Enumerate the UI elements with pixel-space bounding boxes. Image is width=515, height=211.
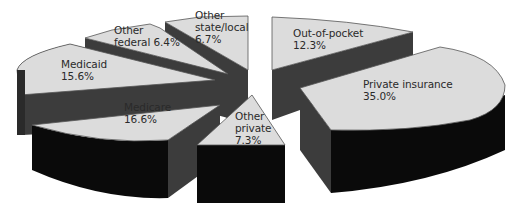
label-private-insurance-value: 35.0%	[363, 90, 453, 102]
slice-other-private-front	[197, 145, 285, 203]
label-other-private-value: 7.3%	[235, 134, 271, 146]
label-other-state-local: Other state/local 6.7%	[195, 9, 249, 45]
label-medicare: Medicare 16.6%	[124, 101, 171, 125]
label-private-insurance: Private insurance 35.0%	[363, 78, 453, 102]
label-out-of-pocket-value: 12.3%	[293, 39, 363, 51]
pie-chart-3d	[0, 0, 515, 211]
label-out-of-pocket-name: Out-of-pocket	[293, 27, 363, 39]
label-medicare-name: Medicare	[124, 101, 171, 113]
label-other-state-local-value: 6.7%	[195, 33, 249, 45]
label-other-federal: Other federal 6.4%	[114, 24, 180, 48]
label-other-state-local-line1: Other	[195, 9, 249, 21]
label-medicaid: Medicaid 15.6%	[61, 58, 107, 82]
label-medicare-value: 16.6%	[124, 113, 171, 125]
label-other-state-local-line2: state/local	[195, 21, 249, 33]
label-other-private: Other private 7.3%	[235, 110, 271, 146]
label-out-of-pocket: Out-of-pocket 12.3%	[293, 27, 363, 51]
label-other-private-line1: Other	[235, 110, 271, 122]
label-other-federal-line1: Other	[114, 24, 180, 36]
label-private-insurance-name: Private insurance	[363, 78, 453, 90]
label-medicaid-name: Medicaid	[61, 58, 107, 70]
label-other-private-line2: private	[235, 122, 271, 134]
label-medicaid-value: 15.6%	[61, 70, 107, 82]
label-other-federal-value: federal 6.4%	[114, 36, 180, 48]
